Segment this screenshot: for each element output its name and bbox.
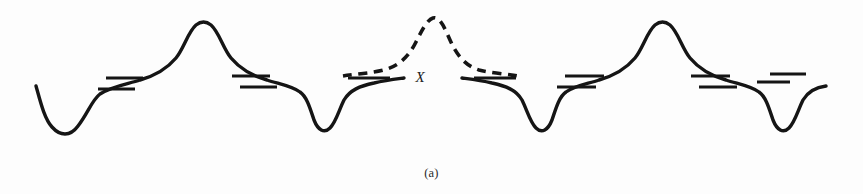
energy-level-marks-group [98, 74, 806, 89]
dashed-curve-group [343, 18, 518, 76]
figure-caption-label: (a) [424, 166, 438, 180]
figure-caption: (a) [0, 166, 863, 181]
solid-curves-group [36, 22, 826, 134]
figure-container: X (a) [0, 0, 863, 194]
potential-energy-curve-diagram: X [0, 0, 863, 194]
dashed-barrier-curve [343, 18, 518, 76]
center-label-x: X [414, 69, 425, 85]
